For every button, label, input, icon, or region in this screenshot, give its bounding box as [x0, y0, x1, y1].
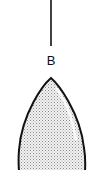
diagram-svg — [0, 0, 91, 170]
teardrop-shape — [19, 78, 86, 170]
part-label: B — [43, 54, 59, 68]
diagram-canvas: B — [0, 0, 91, 170]
